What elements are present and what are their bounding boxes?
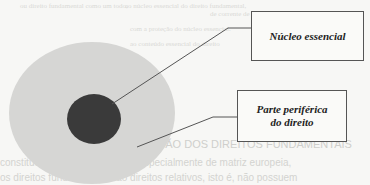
periphery-label-line-1: Parte periférica bbox=[256, 103, 327, 115]
core-label-box: Núcleo essencial bbox=[251, 11, 364, 61]
periphery-label: Parte periférica do direito bbox=[256, 103, 327, 129]
periphery-label-box: Parte periférica do direito bbox=[237, 90, 347, 142]
periphery-label-line-2: do direito bbox=[270, 116, 313, 128]
inner-region-ellipse bbox=[67, 94, 121, 144]
core-label: Núcleo essencial bbox=[269, 30, 345, 43]
